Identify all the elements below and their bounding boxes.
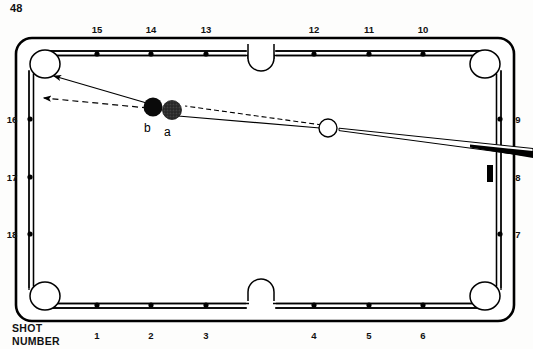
rail-number-right-7: 7 — [509, 229, 527, 240]
diamond-right-9 — [497, 116, 502, 121]
rail-number-left-18: 18 — [3, 229, 21, 240]
cue-ball — [319, 119, 337, 137]
diamond-bottom-4 — [311, 302, 316, 307]
rail-number-top-15: 15 — [88, 24, 106, 35]
diamond-bottom-6 — [420, 302, 425, 307]
diamond-top-14 — [148, 51, 153, 56]
diamond-bottom-1 — [94, 302, 99, 307]
table-outer-edge — [16, 38, 514, 321]
rail-number-bottom-3: 3 — [197, 330, 215, 341]
diamond-top-11 — [366, 51, 371, 56]
rail-aim-mark — [487, 165, 493, 182]
object-ball-b — [144, 98, 163, 117]
rail-number-top-11: 11 — [360, 24, 378, 35]
rail-number-bottom-6: 6 — [414, 330, 432, 341]
rail-number-right-9: 9 — [509, 114, 527, 125]
rail-number-top-13: 13 — [197, 24, 215, 35]
rail-number-left-16: 16 — [3, 114, 21, 125]
rail-number-bottom-5: 5 — [360, 330, 378, 341]
pocket-top-right — [470, 50, 500, 78]
object-ball-a — [163, 101, 182, 120]
rail-number-bottom-4: 4 — [305, 330, 323, 341]
diamond-right-7 — [497, 231, 502, 236]
diamond-bottom-2 — [148, 302, 153, 307]
diamond-top-10 — [420, 51, 425, 56]
table-frame — [16, 38, 514, 321]
diamond-left-17 — [27, 174, 32, 179]
pocket-top-left — [30, 50, 60, 78]
pocket-bottom-right — [470, 282, 500, 310]
rail-number-top-14: 14 — [142, 24, 160, 35]
rail-number-left-17: 17 — [3, 172, 21, 183]
diamond-bottom-3 — [203, 302, 208, 307]
diamond-left-18 — [27, 231, 32, 236]
ball-label-a: a — [164, 125, 171, 139]
diamond-top-13 — [203, 51, 208, 56]
diamond-bottom-5 — [366, 302, 371, 307]
diamond-left-16 — [27, 116, 32, 121]
rail-number-bottom-2: 2 — [142, 330, 160, 341]
pocket-bottom-left — [30, 282, 60, 310]
diamond-top-15 — [94, 51, 99, 56]
pocket-bottom-side-arch — [248, 279, 274, 301]
pool-table-diagram: b a — [0, 0, 533, 349]
rail-number-top-12: 12 — [305, 24, 323, 35]
rail-number-right-8: 8 — [509, 172, 527, 183]
shot-diagram-page: 48 SHOT NUMBER — [0, 0, 533, 349]
rail-number-top-10: 10 — [414, 24, 432, 35]
ball-label-b: b — [144, 121, 151, 135]
diamond-top-12 — [311, 51, 316, 56]
rail-number-bottom-1: 1 — [88, 330, 106, 341]
pocket-top-side-arch — [248, 44, 274, 71]
